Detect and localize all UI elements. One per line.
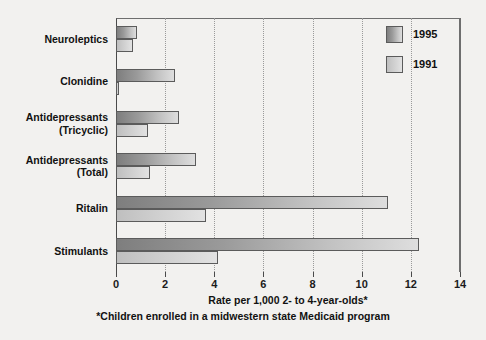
bar-1995-neuroleptics	[116, 26, 137, 39]
legend-label-1991: 1991	[413, 58, 437, 70]
x-tick-label-0: 0	[113, 278, 119, 290]
x-tick-mark-10	[362, 272, 363, 277]
category-label-wrap: Clonidine	[0, 75, 112, 88]
x-tick-mark-8	[313, 272, 314, 277]
x-tick-label-12: 12	[405, 278, 417, 290]
x-tick-label-8: 8	[310, 278, 316, 290]
x-tick-label-14: 14	[454, 278, 466, 290]
bar-1995-ritalin	[116, 196, 388, 209]
category-label-wrap: Neuroleptics	[0, 33, 112, 46]
bar-1991-antidepressants	[116, 166, 150, 179]
bar-1991-ritalin	[116, 209, 206, 222]
category-label-wrap: Antidepressants (Total)	[0, 154, 112, 179]
x-tick-mark-4	[214, 272, 215, 277]
x-tick-mark-0	[116, 272, 117, 277]
x-tick-label-6: 6	[260, 278, 266, 290]
chart-footnote: *Children enrolled in a midwestern state…	[0, 310, 486, 322]
x-tick-label-4: 4	[211, 278, 217, 290]
category-label-antidepressants: Antidepressants (Tricyclic)	[0, 111, 108, 136]
category-label-neuroleptics: Neuroleptics	[0, 33, 108, 46]
bar-1991-clonidine	[116, 82, 119, 95]
legend-label-1995: 1995	[413, 28, 437, 40]
x-tick-label-2: 2	[162, 278, 168, 290]
legend-swatch-1991	[386, 56, 403, 73]
bar-1995-clonidine	[116, 69, 175, 82]
category-label-wrap: Stimulants	[0, 245, 112, 258]
category-label-ritalin: Ritalin	[0, 202, 108, 215]
category-label-clonidine: Clonidine	[0, 75, 108, 88]
x-axis-title: Rate per 1,000 2- to 4-year-olds*	[116, 294, 460, 306]
bar-1991-antidepressants	[116, 124, 148, 137]
gridline-14	[460, 18, 461, 276]
x-tick-mark-14	[460, 272, 461, 277]
bar-1995-stimulants	[116, 238, 419, 251]
category-label-wrap: Antidepressants (Tricyclic)	[0, 111, 112, 136]
category-label-stimulants: Stimulants	[0, 245, 108, 258]
bar-1991-stimulants	[116, 251, 218, 264]
category-label-wrap: Ritalin	[0, 202, 112, 215]
legend-swatch-1995	[386, 26, 403, 43]
bar-chart: 02468101214 NeurolepticsClonidineAntidep…	[0, 0, 486, 340]
plot-area-frame	[116, 18, 460, 272]
bar-1995-antidepressants	[116, 153, 196, 166]
x-tick-label-10: 10	[356, 278, 368, 290]
category-label-antidepressants: Antidepressants (Total)	[0, 154, 108, 179]
bar-1995-antidepressants	[116, 111, 179, 124]
x-tick-mark-12	[411, 272, 412, 277]
bar-1991-neuroleptics	[116, 39, 133, 52]
x-tick-mark-2	[165, 272, 166, 277]
x-tick-mark-6	[263, 272, 264, 277]
